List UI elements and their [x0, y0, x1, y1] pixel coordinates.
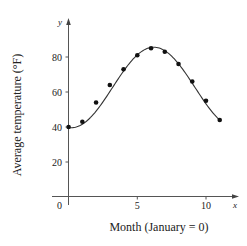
data-point — [66, 125, 71, 130]
data-point — [135, 53, 140, 58]
data-point — [121, 67, 126, 72]
data-point — [217, 118, 222, 123]
temperature-chart: Average temperature (°F) y x 20406080 05… — [0, 0, 247, 246]
x-axis-letter: x — [232, 200, 237, 210]
y-tick-label: 80 — [52, 52, 62, 63]
axes: y x — [52, 17, 239, 210]
x-tick-label: 5 — [135, 200, 140, 211]
y-axis-label: Average temperature (°F) — [10, 54, 24, 177]
data-point — [108, 83, 113, 88]
data-point — [162, 49, 167, 54]
x-axis-label: Month (January = 0) — [109, 220, 208, 234]
y-tick-label: 60 — [52, 87, 62, 98]
data-point — [204, 98, 209, 103]
x-tick-label: 0 — [57, 200, 62, 211]
y-tick-label: 40 — [52, 122, 62, 133]
data-point — [80, 119, 85, 124]
data-point — [190, 79, 195, 84]
y-axis-letter: y — [57, 17, 62, 27]
data-point — [176, 62, 181, 67]
data-points — [66, 46, 222, 129]
data-point — [94, 100, 99, 105]
x-axis-arrow-icon — [232, 194, 239, 199]
x-ticks: 0510 — [57, 197, 211, 212]
x-tick-label: 10 — [201, 200, 211, 211]
model-curve — [69, 47, 220, 128]
data-point — [149, 46, 154, 51]
y-tick-label: 20 — [52, 157, 62, 168]
y-axis-arrow-icon — [66, 18, 71, 25]
y-ticks: 20406080 — [52, 52, 69, 168]
